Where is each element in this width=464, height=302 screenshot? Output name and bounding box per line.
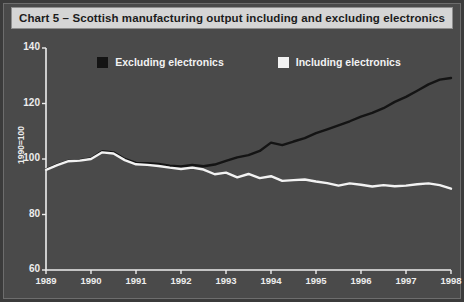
legend-swatch-excluding: [97, 57, 108, 68]
chart-screenshot: Chart 5 – Scottish manufacturing output …: [0, 0, 464, 302]
page-title: Chart 5 – Scottish manufacturing output …: [19, 12, 445, 24]
chart-legend: Excluding electronics Including electron…: [46, 52, 452, 72]
chart-frame: [3, 3, 461, 299]
legend-item-including: Including electronics: [278, 56, 401, 68]
legend-item-excluding: Excluding electronics: [97, 56, 224, 68]
legend-swatch-including: [278, 57, 289, 68]
legend-label-including: Including electronics: [296, 56, 401, 68]
legend-label-excluding: Excluding electronics: [115, 56, 224, 68]
chart-title-bar: Chart 5 – Scottish manufacturing output …: [11, 7, 453, 29]
